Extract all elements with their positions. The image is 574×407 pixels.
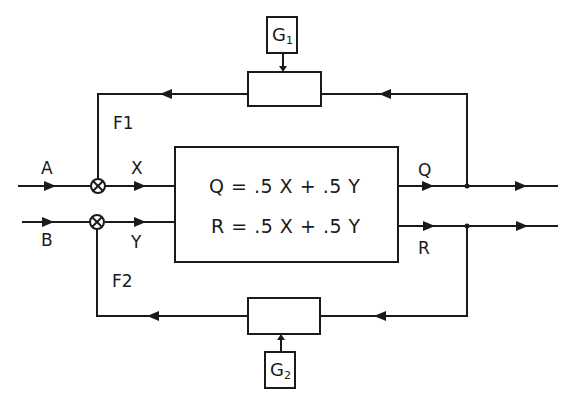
label-f2: F2	[112, 273, 133, 290]
arrow-q-out	[515, 181, 527, 191]
arrow-q	[422, 181, 434, 191]
process-block	[175, 147, 398, 262]
f1-return-path	[98, 94, 248, 179]
label-q: Q	[418, 162, 431, 179]
label-g2: G2	[270, 361, 291, 381]
arrow-f2-right-left	[374, 311, 386, 321]
junction-dot-r	[465, 224, 470, 229]
label-x: X	[131, 160, 143, 177]
block-diagram-canvas	[0, 0, 574, 407]
label-f1: F1	[113, 115, 134, 132]
label-b: B	[41, 232, 53, 249]
label-r: R	[418, 240, 430, 257]
label-y: Y	[131, 234, 141, 251]
label-g1: G1	[272, 26, 293, 46]
f1-feedback-path	[321, 94, 467, 186]
arrow-a	[44, 181, 56, 191]
arrow-f1-left	[160, 89, 172, 99]
arrow-f2-left	[147, 311, 159, 321]
equation-q: Q = .5 X + .5 Y	[209, 175, 360, 197]
top-valve-block	[248, 72, 321, 106]
arrow-r	[423, 221, 435, 231]
arrow-b	[42, 217, 54, 227]
junction-dot-q	[465, 184, 470, 189]
arrow-r-out	[516, 221, 528, 231]
equation-r: R = .5 X + .5 Y	[211, 215, 361, 237]
bottom-valve-block	[248, 298, 320, 334]
arrow-y	[134, 217, 146, 227]
arrow-f1-right-left	[379, 89, 391, 99]
f2-feedback-path	[320, 226, 467, 316]
label-a: A	[41, 160, 53, 177]
arrow-x	[134, 181, 146, 191]
